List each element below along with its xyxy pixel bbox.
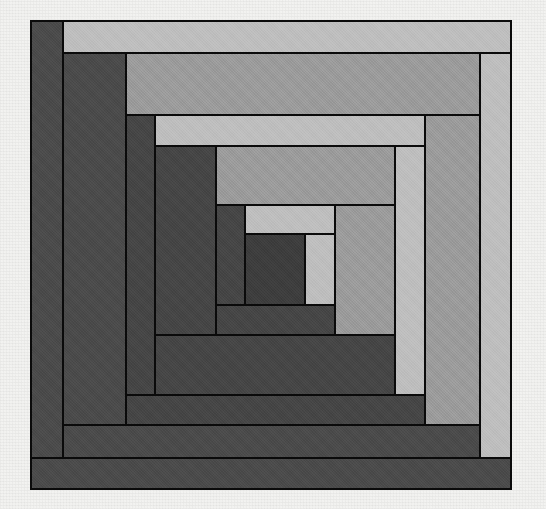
log-r5-left bbox=[216, 205, 245, 305]
log-r3-top bbox=[155, 115, 425, 146]
log-r4-left bbox=[155, 146, 216, 335]
log-center-square bbox=[245, 234, 305, 305]
log-r5-top bbox=[245, 205, 335, 234]
log-outer-left bbox=[31, 21, 63, 458]
log-center-right bbox=[305, 234, 335, 305]
log-outer-bottom bbox=[31, 458, 511, 489]
log-r2-top bbox=[126, 53, 480, 115]
log-r3-right bbox=[395, 146, 425, 395]
log-outer-top bbox=[63, 21, 511, 53]
log-r2-left bbox=[63, 53, 126, 425]
log-r3-bottom bbox=[126, 395, 425, 425]
logs-group bbox=[31, 21, 511, 489]
log-cabin-block bbox=[0, 0, 546, 509]
log-r2-right bbox=[425, 115, 480, 425]
log-r3-left bbox=[126, 115, 155, 395]
quilt-canvas bbox=[0, 0, 546, 509]
log-r4-top bbox=[216, 146, 395, 205]
log-r4-bottom bbox=[155, 335, 395, 395]
log-r2-bottom bbox=[63, 425, 480, 458]
log-r4-right bbox=[335, 205, 395, 335]
log-r5-bottom bbox=[216, 305, 335, 335]
log-outer-right bbox=[480, 53, 511, 458]
